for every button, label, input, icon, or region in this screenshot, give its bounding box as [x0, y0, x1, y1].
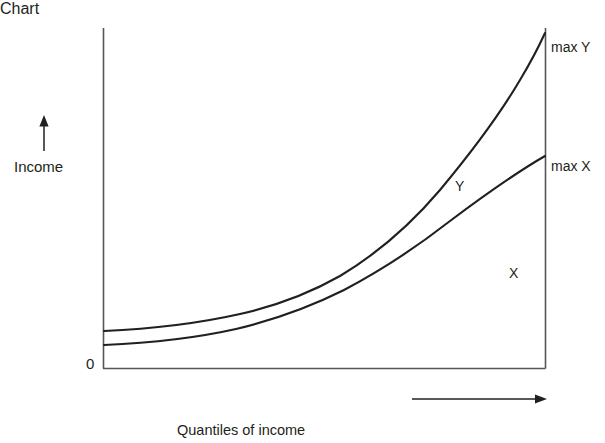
x-axis-caption: Quantiles of income recipients, ordered …: [177, 384, 336, 443]
max-y-annotation: max Y: [551, 39, 590, 57]
x-axis-caption-line-1: Quantiles of income: [177, 421, 336, 440]
max-x-annotation: max X: [551, 158, 591, 176]
income-quantile-chart: Income 0 max Y max X Y X Quantiles of in…: [0, 18, 605, 443]
curve-x: [104, 156, 545, 345]
curve-y-label: Y: [455, 178, 464, 196]
curve-y: [104, 33, 545, 331]
curve-x-label: X: [509, 265, 518, 283]
up-arrow-icon: [39, 115, 48, 151]
y-axis-origin-label: 0: [86, 354, 94, 373]
chart-canvas: [0, 18, 605, 443]
y-axis-label: Income: [14, 157, 63, 176]
right-arrow-icon: [412, 394, 547, 403]
